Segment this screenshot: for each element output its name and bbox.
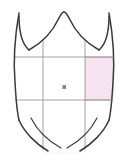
abdomen-region-figure: left lumbar region: [0, 0, 127, 162]
region-left-lumbar-highlight[interactable]: [85, 57, 115, 100]
abdomen-diagram-svg: [0, 0, 127, 162]
figure-caption: left lumbar region: [0, 150, 127, 156]
highlight-group: [85, 57, 115, 100]
